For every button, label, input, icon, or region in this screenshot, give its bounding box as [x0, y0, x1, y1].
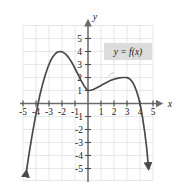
- y-tick-label: -3: [75, 138, 83, 148]
- x-tick-label: -2: [58, 107, 66, 117]
- function-graph-figure: -5 -4 -3 -2 -1 1 2 3 4 5 5 4 3 2 1 -1 -2…: [0, 0, 182, 195]
- x-tick-label: 5: [151, 107, 156, 117]
- y-tick-label: 4: [77, 47, 82, 57]
- y-tick-label: -4: [75, 151, 83, 161]
- y-tick-label: 3: [77, 60, 82, 70]
- x-tick-label: 2: [112, 107, 117, 117]
- x-tick-label: 3: [125, 107, 130, 117]
- y-axis-label: y: [92, 11, 98, 22]
- y-tick-label: 5: [77, 34, 82, 44]
- graph-canvas: -5 -4 -3 -2 -1 1 2 3 4 5 5 4 3 2 1 -1 -2…: [0, 0, 182, 195]
- x-tick-label: -5: [19, 107, 27, 117]
- y-tick-label: -2: [75, 125, 83, 135]
- y-tick-label: 1: [77, 86, 82, 96]
- y-tick-label: -1: [75, 112, 83, 122]
- x-axis-label: x: [167, 98, 173, 109]
- y-tick-label: -5: [75, 164, 83, 174]
- x-tick-label: -3: [45, 107, 53, 117]
- function-label-text: y = f(x): [113, 47, 143, 58]
- x-tick-label: 1: [99, 107, 104, 117]
